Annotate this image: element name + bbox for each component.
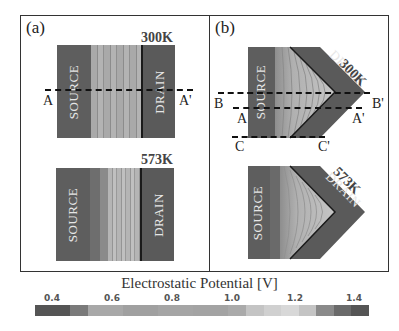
colorbar-swatch xyxy=(351,305,369,316)
colorbar-tick: 1.0 xyxy=(224,293,240,303)
colorbar-swatch xyxy=(158,305,176,316)
colorbar-swatch xyxy=(211,305,229,316)
colorbar-swatch xyxy=(299,305,317,316)
panel-b-573k-source-label: SOURCE xyxy=(250,184,266,242)
colorbar-swatch xyxy=(246,305,264,316)
cut-line-b xyxy=(218,92,370,94)
colorbar-swatch xyxy=(105,305,123,316)
colorbar-swatch xyxy=(228,305,246,316)
colorbar-swatch xyxy=(281,305,299,316)
colorbar xyxy=(35,305,369,316)
cut-line-a-b xyxy=(233,107,362,109)
colorbar-tick: 0.4 xyxy=(44,293,60,303)
cut-a-right-b: A' xyxy=(352,111,365,127)
colorbar-tick: 0.6 xyxy=(104,293,120,303)
colorbar-tick: 1.4 xyxy=(346,293,362,303)
colorbar-swatch xyxy=(176,305,194,316)
colorbar-swatch xyxy=(140,305,158,316)
colorbar-swatch xyxy=(70,305,88,316)
colorbar-swatch xyxy=(264,305,282,316)
colorbar-title: Electrostatic Potential [V] xyxy=(0,275,399,292)
cut-b-left: B xyxy=(214,96,223,112)
cut-c-right: C' xyxy=(318,139,330,155)
cut-line-c xyxy=(232,136,325,138)
colorbar-swatch xyxy=(53,305,71,316)
colorbar-swatch xyxy=(88,305,106,316)
cut-a-left-b: A xyxy=(237,111,247,127)
cut-c-left: C xyxy=(235,139,244,155)
colorbar-swatch xyxy=(193,305,211,316)
colorbar-tick: 0.8 xyxy=(164,293,180,303)
colorbar-tick: 1.2 xyxy=(287,293,303,303)
colorbar-swatch xyxy=(35,305,53,316)
colorbar-swatch xyxy=(123,305,141,316)
colorbar-swatch xyxy=(316,305,334,316)
colorbar-swatch xyxy=(334,305,352,316)
cut-b-right: B' xyxy=(372,96,384,112)
